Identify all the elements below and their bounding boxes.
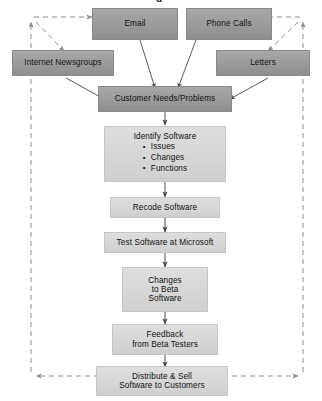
node-changes-beta-line-1: Changes	[148, 276, 181, 285]
bullet-functions: Functions	[143, 164, 187, 175]
node-internet-newsgroups-label: Internet Newsgroups	[24, 58, 101, 67]
node-recode-software[interactable]: Recode Software	[110, 197, 220, 218]
node-feedback-beta[interactable]: Feedback from Beta Testers	[112, 324, 218, 355]
node-customer-needs[interactable]: Customer Needs/Problems	[98, 86, 232, 112]
node-identify-software[interactable]: Identify Software Issues Changes Functio…	[104, 126, 226, 182]
node-identify-software-label: Identify Software	[134, 132, 197, 141]
node-customer-needs-label: Customer Needs/Problems	[115, 94, 216, 103]
node-email-label: Email	[125, 19, 146, 28]
node-phone-calls-label: Phone Calls	[206, 19, 251, 28]
node-test-software[interactable]: Test Software at Microsoft	[104, 232, 226, 253]
node-changes-beta-line-2: to Beta	[152, 285, 179, 294]
node-changes-beta-line-3: Software	[148, 294, 181, 303]
identify-software-bullets: Issues Changes Functions	[143, 142, 187, 174]
node-test-software-label: Test Software at Microsoft	[117, 238, 214, 247]
node-distribute-sell-line-1: Distribute & Sell	[132, 372, 192, 381]
node-distribute-sell-line-2: Software to Customers	[119, 381, 204, 390]
node-letters[interactable]: Letters	[216, 50, 310, 76]
node-distribute-sell[interactable]: Distribute & Sell Software to Customers	[96, 366, 228, 396]
bullet-changes: Changes	[143, 153, 187, 164]
node-feedback-beta-line-2: from Beta Testers	[132, 340, 198, 349]
node-recode-software-label: Recode Software	[133, 203, 197, 212]
node-changes-beta[interactable]: Changes to Beta Software	[122, 267, 208, 312]
node-phone-calls[interactable]: Phone Calls	[186, 8, 272, 40]
node-letters-label: Letters	[250, 58, 276, 67]
node-internet-newsgroups[interactable]: Internet Newsgroups	[12, 50, 114, 76]
flowchart-diagram: g	[0, 0, 322, 401]
node-email[interactable]: Email	[92, 8, 178, 40]
node-feedback-beta-line-1: Feedback	[147, 330, 184, 339]
bullet-issues: Issues	[143, 142, 187, 153]
